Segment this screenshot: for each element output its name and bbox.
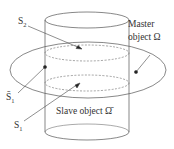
- label-master-line2: object Ω: [128, 32, 161, 42]
- contact-surfaces: [45, 45, 129, 91]
- master-dot-icon: [134, 70, 137, 73]
- s2-dashed-ellipse: [45, 45, 129, 61]
- contact-diagram: S2 Master object Ω S̄1 Slave object Ω̄ S…: [0, 0, 174, 149]
- label-s1bar: S̄1: [6, 91, 15, 103]
- s1bar-dot-icon: [43, 65, 46, 68]
- s1-dashed-ellipse: [45, 75, 129, 91]
- cylinder-top-ellipse: [45, 12, 129, 28]
- slave-cylinder: [45, 12, 129, 140]
- label-slave-object: Slave object Ω̄: [56, 106, 114, 116]
- cylinder-bottom-arc: [45, 132, 129, 140]
- cylinder-bottom-back-arc: [45, 124, 129, 132]
- label-s1: S1: [14, 120, 23, 132]
- label-s2: S2: [18, 16, 27, 28]
- master-pointer-line: [136, 55, 150, 72]
- s2-arrowhead-icon: [76, 46, 82, 50]
- master-object-ellipse: [10, 42, 166, 98]
- label-master-line1: Master: [128, 19, 155, 29]
- s1-arrowhead-icon: [75, 83, 80, 88]
